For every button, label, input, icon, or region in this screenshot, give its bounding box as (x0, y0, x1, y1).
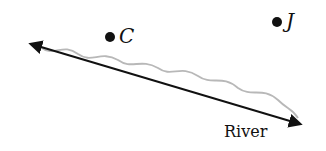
point-j (272, 17, 282, 27)
river-line (31, 44, 300, 124)
point-c-label: C (119, 24, 134, 48)
river-diagram (0, 0, 326, 151)
point-c (105, 32, 115, 42)
river-label: River (224, 122, 267, 141)
point-j-label: J (286, 9, 294, 33)
